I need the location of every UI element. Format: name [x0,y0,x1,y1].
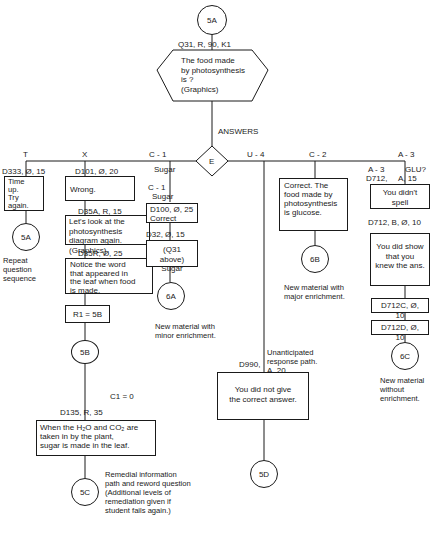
branch-a3-glu: GLU? [405,165,426,174]
node-5a-start: 5A [197,5,227,35]
major-enrichment-caption: New material with major enrichment. [284,283,345,301]
node-label: 6B [310,255,320,264]
c1-code: D100, Ø, 25 [150,205,194,214]
knew-answer-box: You did show that you knew the ans. [370,233,430,286]
wrong-box: Wrong. [65,176,135,201]
branch-a3-code1b: A, 15 [398,174,417,183]
remedial-caption: Remedial information path and reword que… [105,470,191,515]
repeat-caption: Repeat question sequence [3,256,36,283]
r1-5b-box: R1 = 5B [65,305,110,323]
correct-box-c1: D100, Ø, 25 Correct [146,203,198,223]
branch-u4-label: U - 4 [247,150,264,159]
branch-x-label: X [82,150,87,159]
question-code: Q31, R, 90, K1 [178,40,231,49]
branch-a3-label2: A - 3 [368,165,384,174]
notice-word-box: Notice the word that appeared in the lea… [65,258,153,294]
decision-label: E [209,157,214,166]
branch-t-label: T [23,150,28,159]
minor-enrichment-caption: New material with minor enrichment. [155,322,216,340]
time-up-box: Time up. Try again. [4,176,44,211]
node-5d: 5D [250,460,278,488]
glucose-correct-box: Correct. The food made by photosynthesis… [279,178,348,231]
node-5c: 5C [71,478,99,506]
branch-c1-label2: C - 1 [148,183,165,192]
without-enrichment-caption: New material without enrichment. [380,376,424,403]
node-label: 6A [166,292,176,301]
branch-x-code1: D101, Ø, 20 [75,167,118,176]
branch-u4-code: D990, [239,360,260,369]
d712c-box: D712C, Ø, 10 [371,298,429,313]
didnt-spell-box: You didn't spell [370,184,430,209]
not-correct-box: You did not give the correct answer. [217,372,309,420]
node-label: 6C [400,352,410,361]
node-5a-repeat: 5A [12,223,40,251]
node-5b: 5B [71,340,99,364]
c1-correct: Correct [150,214,194,223]
q31-sugar-box: (Q31 above) Sugar [146,240,198,267]
node-label: 5D [259,470,269,479]
branch-c2-label: C - 2 [309,150,326,159]
unanticipated-caption: Unanticipated response path. [267,348,317,366]
node-6c: 6C [391,342,419,370]
node-label: 5A [21,233,31,242]
question-hexagon: The food made by photosynthesis is ? (Gr… [135,52,275,102]
node-label: 5C [80,488,90,497]
branch-x-code3: D35R, Ø, 25 [78,249,122,258]
node-label: 5A [207,16,217,25]
branch-x-cond: C1 = 0 [110,392,134,401]
diagram-again-box: Let's look at the photosynthesis diagram… [65,215,150,245]
answers-label: ANSWERS [218,127,258,136]
node-6a: 6A [157,282,185,310]
branch-x-code4: D135, R, 35 [60,408,103,417]
branch-a3-code1: D712, [366,174,387,183]
branch-c1-sub: Sugar [154,165,175,174]
branch-a3-code2: D712, B, Ø, 10 [368,218,421,227]
h2o-co2-box: When the H₂O and CO₂ are taken in by the… [36,420,156,456]
branch-a3-label: A - 3 [398,150,414,159]
branch-c1-code2: D32, Ø, 15 [146,230,185,239]
d712d-box: D712D, Ø, 10 [371,320,429,335]
branch-t-code: D333, Ø, 15 [2,167,45,176]
branch-c1-sub2: Sugar [152,192,173,201]
branch-c1-label: C - 1 [149,150,166,159]
node-6b: 6B [301,245,329,273]
node-label: 5B [80,348,90,357]
